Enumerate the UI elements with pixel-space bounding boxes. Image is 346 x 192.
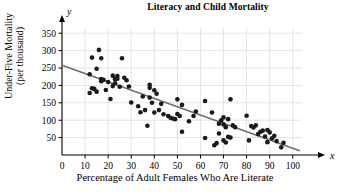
data-point [228,97,233,102]
svg-text:350: 350 [42,29,57,39]
svg-text:40: 40 [150,161,160,171]
data-point [194,109,199,114]
svg-text:250: 250 [42,63,57,73]
data-point [117,85,122,90]
svg-text:10: 10 [80,161,90,171]
data-point [150,101,155,106]
data-point [127,84,132,89]
data-point [272,134,277,139]
data-point [244,113,249,118]
data-point [94,66,99,71]
data-point [154,91,159,96]
data-point [138,110,143,115]
data-point [101,78,106,83]
scatter-plot-figure: Literacy and Child Mortality Under-Five … [0,0,346,192]
data-point [90,55,95,60]
svg-text:30: 30 [126,161,136,171]
data-point [180,103,185,108]
data-point [87,91,92,96]
data-point [228,135,233,140]
data-point [180,129,185,134]
data-point [145,123,150,128]
data-point [157,108,162,113]
data-point [147,86,152,91]
svg-text:100: 100 [286,161,301,171]
data-point [267,130,272,135]
data-point [106,80,111,85]
data-point [143,108,148,113]
data-point [217,131,222,136]
data-point [187,119,192,124]
data-point [265,140,270,145]
data-point [221,115,226,120]
svg-text:150: 150 [42,98,57,108]
svg-text:20: 20 [103,161,113,171]
data-point [247,138,252,143]
svg-text:50: 50 [173,161,183,171]
x-gridlines [85,28,293,155]
data-point [159,102,164,107]
svg-text:50: 50 [47,133,57,143]
data-point [263,134,268,139]
data-point-series [87,48,285,150]
svg-text:60: 60 [196,161,206,171]
data-point [173,117,178,122]
data-point [113,81,118,86]
y-axis-symbol: y [66,6,72,17]
data-point [140,94,145,99]
data-point [152,110,157,115]
x-tick-labels: 0102030405060708090100 [60,161,301,171]
data-point [108,97,113,102]
axis-lines [59,15,325,158]
svg-text:200: 200 [42,81,57,91]
svg-text:90: 90 [265,161,275,171]
svg-text:80: 80 [242,161,252,171]
data-point [120,56,125,61]
plot-canvas: 0102030405060708090100 50100150200250300… [0,0,346,192]
data-point [161,112,166,117]
data-point [175,97,180,102]
svg-text:100: 100 [42,116,57,126]
svg-text:300: 300 [42,46,57,56]
data-point [97,48,102,53]
x-axis-title: Percentage of Adult Females Who Are Lite… [30,172,320,183]
x-axis-symbol: x [329,150,335,161]
data-point [115,77,120,82]
data-point [214,141,219,146]
data-point [87,72,92,77]
data-point [99,56,104,61]
svg-text:70: 70 [219,161,229,171]
data-point [136,104,141,109]
svg-text:0: 0 [60,161,65,171]
data-point [224,125,229,130]
data-point [177,114,182,119]
data-point [254,123,259,128]
y-tick-labels: 50100150200250300350 [42,29,57,143]
data-point [104,88,109,93]
data-point [233,125,238,130]
data-point [260,128,265,133]
data-point [129,100,134,105]
data-point [147,95,152,100]
axis-ticks [59,33,293,158]
data-point [279,145,284,150]
data-point [203,136,208,141]
data-point [281,141,286,146]
data-point [224,140,229,145]
data-point [203,99,208,104]
data-point [191,114,196,119]
data-point [94,89,99,94]
data-point [210,110,215,115]
data-point [226,117,231,122]
data-point [274,139,279,144]
data-point [124,78,129,83]
